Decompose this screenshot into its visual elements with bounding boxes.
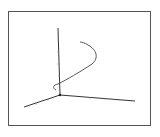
origin-point [59,94,61,96]
curve [54,42,97,90]
plot-3d [0,0,160,137]
x-axis [60,95,135,101]
y-axis [24,95,60,107]
axes [24,28,135,107]
z-axis [58,28,60,95]
